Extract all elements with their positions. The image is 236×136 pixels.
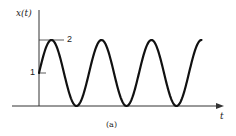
sinusoid-chart (0, 0, 236, 136)
y-axis-label: x(t) (16, 9, 32, 18)
sinusoid-curve (39, 40, 202, 106)
x-axis-arrow-icon (216, 103, 224, 109)
tick-label-2: 2 (67, 35, 72, 44)
figure-caption: (a) (106, 121, 117, 129)
tick-label-1: 1 (30, 68, 35, 77)
x-axis-label: t (220, 112, 224, 121)
